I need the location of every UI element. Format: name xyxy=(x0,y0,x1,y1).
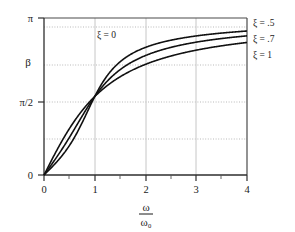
annotation-zeta-zero: ξ = 0 xyxy=(97,30,116,41)
curve-label-zeta-0p7: ξ = .7 xyxy=(253,34,275,45)
axis-title-x-denominator: ω₀ xyxy=(140,216,151,228)
ylabel-zero: 0 xyxy=(28,170,33,181)
curve-label-zeta-0p5: ξ = .5 xyxy=(253,18,275,29)
xlabel-2: 2 xyxy=(143,184,148,195)
xlabel-0: 0 xyxy=(41,184,46,195)
ylabel-pi-over-2: π/2 xyxy=(20,97,33,108)
chart-canvas: π π/2 0 β 0 1 2 3 4 ω ω₀ ξ = 0 ξ = .5 ξ … xyxy=(0,0,295,232)
phase-response-chart: π π/2 0 β 0 1 2 3 4 ω ω₀ ξ = 0 ξ = .5 ξ … xyxy=(0,0,295,232)
axis-title-x-numerator: ω xyxy=(142,201,149,213)
axis-title-y: β xyxy=(25,56,31,68)
curve-label-zeta-1: ξ = 1 xyxy=(253,50,272,61)
xlabel-4: 4 xyxy=(244,184,250,195)
xlabel-3: 3 xyxy=(193,184,198,195)
xlabel-1: 1 xyxy=(92,184,97,195)
ylabel-pi: π xyxy=(28,13,34,24)
